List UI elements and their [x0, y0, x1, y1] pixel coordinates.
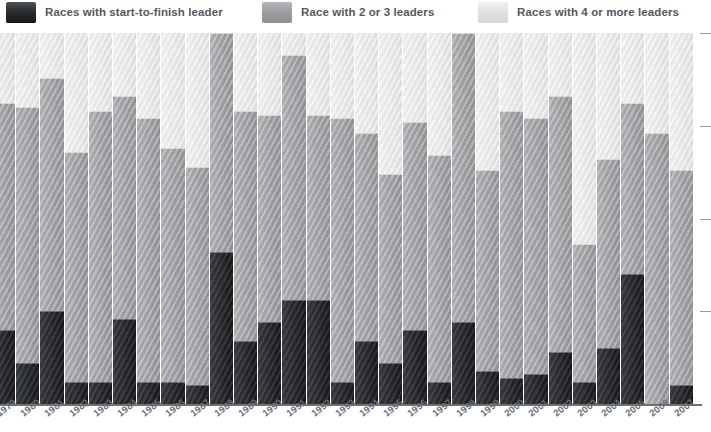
- bar-1985[interactable]: [137, 33, 160, 404]
- segment-start-to-finish-leader: [282, 300, 305, 404]
- segment-two-or-three-leaders: [161, 148, 184, 382]
- bar-1986[interactable]: [161, 33, 184, 404]
- segment-four-or-more-leaders: [40, 33, 63, 78]
- bar-1980[interactable]: [16, 33, 39, 404]
- segment-four-or-more-leaders: [500, 33, 523, 111]
- segment-four-or-more-leaders: [476, 33, 499, 170]
- segment-two-or-three-leaders: [355, 133, 378, 341]
- segment-two-or-three-leaders: [428, 155, 451, 381]
- legend-item-label: Races with 4 or more leaders: [517, 6, 679, 18]
- legend-item-2[interactable]: Race with 2 or 3 leaders: [262, 1, 434, 23]
- segment-four-or-more-leaders: [331, 33, 354, 118]
- bar-1982[interactable]: [65, 33, 88, 404]
- segment-two-or-three-leaders: [573, 244, 596, 381]
- segment-four-or-more-leaders: [137, 33, 160, 118]
- segment-two-or-three-leaders: [40, 78, 63, 312]
- plot-area: [0, 33, 711, 404]
- segment-two-or-three-leaders: [621, 103, 644, 274]
- bar-2004[interactable]: [597, 33, 620, 404]
- light-gray-swatch-icon: [478, 2, 508, 23]
- segment-four-or-more-leaders: [186, 33, 209, 167]
- legend-item-3[interactable]: Races with 4 or more leaders: [478, 1, 679, 23]
- bar-1995[interactable]: [379, 33, 402, 404]
- segment-two-or-three-leaders: [379, 174, 402, 363]
- segment-two-or-three-leaders: [65, 152, 88, 382]
- segment-four-or-more-leaders: [161, 33, 184, 148]
- bar-2005[interactable]: [621, 33, 644, 404]
- segment-two-or-three-leaders: [476, 170, 499, 370]
- segment-two-or-three-leaders: [670, 170, 693, 385]
- segment-start-to-finish-leader: [234, 341, 257, 404]
- segment-two-or-three-leaders: [282, 55, 305, 300]
- segment-four-or-more-leaders: [428, 33, 451, 155]
- bar-2000[interactable]: [500, 33, 523, 404]
- segment-start-to-finish-leader: [597, 348, 620, 404]
- segment-two-or-three-leaders: [549, 96, 572, 352]
- bar-2002[interactable]: [549, 33, 572, 404]
- bar-2003[interactable]: [573, 33, 596, 404]
- segment-two-or-three-leaders: [16, 107, 39, 363]
- segment-start-to-finish-leader: [210, 252, 233, 404]
- bar-1997[interactable]: [428, 33, 451, 404]
- segment-four-or-more-leaders: [355, 33, 378, 133]
- chart-page: Races with start-to-finish leaderRace wi…: [0, 0, 711, 432]
- bar-1983[interactable]: [89, 33, 112, 404]
- bar-1979[interactable]: [0, 33, 15, 404]
- dark-swatch-icon: [6, 2, 36, 23]
- bar-1998[interactable]: [452, 33, 475, 404]
- bar-1987[interactable]: [186, 33, 209, 404]
- y-tick-75: [700, 126, 711, 127]
- bar-1999[interactable]: [476, 33, 499, 404]
- bar-1994[interactable]: [355, 33, 378, 404]
- bar-1984[interactable]: [113, 33, 136, 404]
- bar-2006[interactable]: [645, 33, 668, 404]
- segment-two-or-three-leaders: [186, 167, 209, 386]
- segment-four-or-more-leaders: [113, 33, 136, 96]
- segment-four-or-more-leaders: [670, 33, 693, 170]
- y-tick-100: [700, 33, 711, 34]
- segment-two-or-three-leaders: [452, 33, 475, 322]
- segment-four-or-more-leaders: [645, 33, 668, 133]
- bar-2001[interactable]: [524, 33, 547, 404]
- bar-2007[interactable]: [670, 33, 693, 404]
- segment-four-or-more-leaders: [307, 33, 330, 115]
- segment-start-to-finish-leader: [258, 322, 281, 404]
- segment-two-or-three-leaders: [113, 96, 136, 319]
- legend-item-1[interactable]: Races with start-to-finish leader: [6, 1, 223, 23]
- segment-two-or-three-leaders: [89, 111, 112, 382]
- bar-1992[interactable]: [307, 33, 330, 404]
- bar-1989[interactable]: [234, 33, 257, 404]
- segment-two-or-three-leaders: [0, 103, 15, 329]
- segment-four-or-more-leaders: [89, 33, 112, 111]
- legend-item-label: Races with start-to-finish leader: [45, 6, 223, 18]
- segment-four-or-more-leaders: [403, 33, 426, 122]
- segment-two-or-three-leaders: [234, 111, 257, 341]
- segment-four-or-more-leaders: [282, 33, 305, 55]
- segment-two-or-three-leaders: [258, 115, 281, 323]
- bar-1988[interactable]: [210, 33, 233, 404]
- mid-gray-swatch-icon: [262, 2, 292, 23]
- bar-1991[interactable]: [282, 33, 305, 404]
- segment-two-or-three-leaders: [524, 118, 547, 374]
- legend-item-label: Race with 2 or 3 leaders: [301, 6, 434, 18]
- segment-four-or-more-leaders: [234, 33, 257, 111]
- bar-1993[interactable]: [331, 33, 354, 404]
- segment-start-to-finish-leader: [355, 341, 378, 404]
- segment-two-or-three-leaders: [500, 111, 523, 378]
- bar-1996[interactable]: [403, 33, 426, 404]
- chart-legend: Races with start-to-finish leaderRace wi…: [0, 0, 711, 24]
- segment-start-to-finish-leader: [0, 330, 15, 404]
- y-tick-25: [700, 311, 711, 312]
- segment-two-or-three-leaders: [210, 33, 233, 252]
- segment-four-or-more-leaders: [65, 33, 88, 152]
- segment-four-or-more-leaders: [549, 33, 572, 96]
- segment-four-or-more-leaders: [621, 33, 644, 103]
- bar-1990[interactable]: [258, 33, 281, 404]
- segment-two-or-three-leaders: [307, 115, 330, 301]
- segment-four-or-more-leaders: [379, 33, 402, 174]
- segment-start-to-finish-leader: [40, 311, 63, 404]
- segment-four-or-more-leaders: [524, 33, 547, 118]
- segment-two-or-three-leaders: [597, 159, 620, 348]
- segment-start-to-finish-leader: [403, 330, 426, 404]
- bar-1981[interactable]: [40, 33, 63, 404]
